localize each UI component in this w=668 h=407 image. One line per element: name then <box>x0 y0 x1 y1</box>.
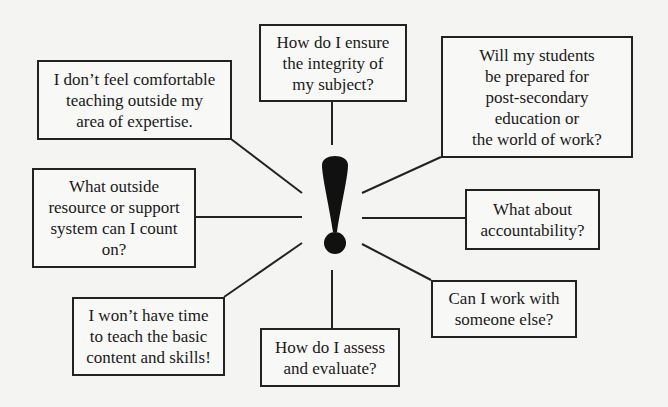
exclamation-icon <box>300 155 370 255</box>
box-text: I won’t have time to teach the basic con… <box>86 305 211 368</box>
box-assess-evaluate: How do I assess and evaluate? <box>260 328 400 387</box>
box-text: What about accountability? <box>481 199 585 241</box>
box-outside-expertise: I don’t feel comfortable teaching outsid… <box>37 60 232 140</box>
box-accountability: What about accountability? <box>465 189 600 250</box>
box-text: Will my students be prepared for post-se… <box>472 45 602 150</box>
box-outside-resource: What outside resource or support system … <box>32 168 196 268</box>
box-text: How do I assess and evaluate? <box>275 337 385 379</box>
box-no-time: I won’t have time to teach the basic con… <box>72 297 225 376</box>
box-text: What outside resource or support system … <box>48 176 179 260</box>
box-text: How do I ensure the integrity of my subj… <box>277 32 390 95</box>
box-work-with-someone: Can I work with someone else? <box>431 280 577 338</box>
box-text: I don’t feel comfortable teaching outsid… <box>54 69 216 132</box>
box-students-prepared: Will my students be prepared for post-se… <box>441 36 633 158</box>
box-text: Can I work with someone else? <box>449 288 560 330</box>
box-integrity-of-subject: How do I ensure the integrity of my subj… <box>259 24 407 102</box>
